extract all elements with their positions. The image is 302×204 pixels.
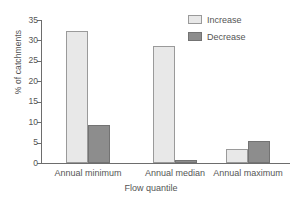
bar-increase-0: [66, 31, 88, 163]
y-tick: 5: [41, 143, 45, 144]
y-tick-label: 25: [29, 55, 38, 65]
increase-swatch-icon: [188, 15, 202, 24]
y-tick: 20: [41, 81, 45, 82]
legend-item-decrease: Decrease: [188, 30, 246, 43]
y-tick: 30: [41, 40, 45, 41]
y-tick-label: 0: [33, 158, 38, 168]
x-axis-title: Flow quantile: [0, 183, 302, 193]
y-axis-title: % of catchments: [13, 7, 23, 117]
x-axis-label-0: Annual minimum: [54, 168, 121, 178]
bar-decrease-2: [248, 141, 270, 163]
y-tick-label: 10: [29, 117, 38, 127]
legend-label-decrease: Decrease: [207, 32, 246, 42]
y-tick: 25: [41, 61, 45, 62]
y-tick: 15: [41, 102, 45, 103]
y-tick: 35: [41, 20, 45, 21]
y-tick-label: 15: [29, 96, 38, 106]
y-tick-label: 20: [29, 76, 38, 86]
y-tick-label: 35: [29, 15, 38, 25]
x-axis-label-2: Annual maximum: [213, 168, 283, 178]
bar-decrease-0: [88, 125, 110, 163]
x-axis-label-1: Annual median: [145, 168, 205, 178]
y-tick-label: 30: [29, 35, 38, 45]
bar-chart: % of catchments 05101520253035 Annual mi…: [0, 0, 302, 204]
plot-area: 05101520253035: [41, 20, 290, 163]
y-tick: 0: [41, 163, 45, 164]
bar-decrease-1: [175, 160, 197, 163]
legend-label-increase: Increase: [207, 15, 242, 25]
x-axis-line: [41, 163, 290, 164]
y-tick: 10: [41, 122, 45, 123]
bar-increase-2: [226, 149, 248, 163]
y-tick-label: 5: [33, 137, 38, 147]
decrease-swatch-icon: [188, 32, 202, 41]
chart-legend: Increase Decrease: [188, 13, 246, 47]
bar-increase-1: [153, 46, 175, 163]
legend-item-increase: Increase: [188, 13, 246, 26]
